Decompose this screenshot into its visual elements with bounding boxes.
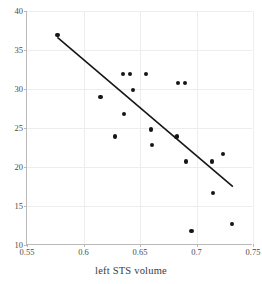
y-tick-label: 20 — [15, 163, 24, 172]
data-point — [98, 95, 102, 99]
x-tick-label: 0.6 — [78, 248, 89, 257]
data-point — [131, 88, 135, 92]
trendline-segment — [57, 37, 233, 186]
data-point — [184, 159, 188, 163]
data-point — [210, 159, 214, 163]
data-point — [122, 112, 126, 116]
y-tick-label: 25 — [15, 124, 24, 133]
x-tick-label: 0.75 — [246, 248, 261, 257]
gridline-vertical — [253, 11, 254, 244]
data-point — [149, 127, 153, 131]
x-tick-mark — [253, 244, 254, 247]
plot-area: 10152025303540 0.550.60.650.70.75 — [26, 11, 252, 245]
data-point — [221, 152, 225, 156]
trendline — [27, 11, 252, 244]
x-tick-label: 0.55 — [20, 248, 35, 257]
y-tick-label: 40 — [15, 7, 24, 16]
y-tick-label: 30 — [15, 85, 24, 94]
x-axis-label: left STS volume — [0, 265, 262, 276]
data-point — [176, 81, 180, 85]
x-tick-mark — [27, 244, 28, 247]
y-tick-label: 35 — [15, 46, 24, 55]
x-tick-mark — [197, 244, 198, 247]
data-point — [175, 134, 179, 138]
scatter-chart: 10152025303540 0.550.60.650.70.75 left S… — [0, 0, 262, 284]
data-point — [211, 191, 215, 195]
x-tick-label: 0.7 — [191, 248, 202, 257]
x-tick-mark — [140, 244, 141, 247]
x-tick-mark — [84, 244, 85, 247]
data-point — [183, 81, 187, 85]
x-tick-label: 0.65 — [133, 248, 148, 257]
y-tick-label: 15 — [15, 202, 24, 211]
data-point — [189, 229, 193, 233]
data-point — [113, 134, 117, 138]
data-point — [55, 33, 59, 37]
